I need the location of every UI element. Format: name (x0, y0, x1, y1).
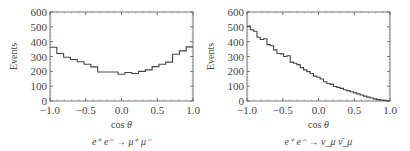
mumu-ytick-label: 100 (31, 80, 48, 92)
mumu-xtick-label: 0.0 (115, 104, 129, 116)
mumu-ytick-label: 400 (31, 36, 48, 48)
nunu-ytick-label: 600 (228, 6, 245, 18)
nunu-ytick-label: 200 (228, 65, 245, 77)
mumu-xtick-label: −1.0 (40, 104, 60, 116)
mumu-ytick-label: 200 (31, 65, 48, 77)
mumu-histogram-line (50, 47, 193, 74)
histogram-nunu-svg: 0100200300400500600−1.0−0.50.00.51.0Even… (197, 0, 410, 151)
nunu-ytick-label: 300 (228, 51, 245, 63)
nunu-xtick-label: 0.5 (347, 104, 361, 116)
mumu-xtick-label: 0.5 (150, 104, 164, 116)
mumu-xtick-label: −0.5 (76, 104, 96, 116)
mumu-ytick-label: 500 (31, 21, 48, 33)
nunu-plot-frame (247, 12, 390, 101)
nunu-ylabel: Events (205, 43, 216, 70)
mumu-ylabel: Events (8, 43, 19, 70)
mumu-plot-frame (50, 12, 193, 101)
nunu-histogram-line (247, 26, 390, 101)
nunu-xlabel: cos θ (308, 119, 329, 130)
mumu-ytick-label: 300 (31, 51, 48, 63)
nunu-ytick-label: 500 (228, 21, 245, 33)
nunu-xtick-label: −1.0 (237, 104, 257, 116)
nunu-process-label: e⁺ e⁻ → ν_μ ν̄_μ (285, 136, 353, 147)
nunu-ytick-label: 100 (228, 80, 245, 92)
histogram-mumu-svg: 0100200300400500600−1.0−0.50.00.51.0Even… (0, 0, 205, 151)
mumu-ytick-label: 600 (31, 6, 48, 18)
nunu-xtick-label: 0.0 (312, 104, 326, 116)
nunu-xtick-label: −0.5 (273, 104, 293, 116)
histogram-nunu: 0100200300400500600−1.0−0.50.00.51.0Even… (197, 0, 402, 151)
mumu-process-label: e⁺ e⁻ → μ⁺ μ⁻ (92, 136, 152, 147)
nunu-ytick-label: 400 (228, 36, 245, 48)
nunu-xtick-label: 1.0 (383, 104, 397, 116)
mumu-xlabel: cos θ (111, 119, 132, 130)
histogram-mumu: 0100200300400500600−1.0−0.50.00.51.0Even… (0, 0, 205, 151)
